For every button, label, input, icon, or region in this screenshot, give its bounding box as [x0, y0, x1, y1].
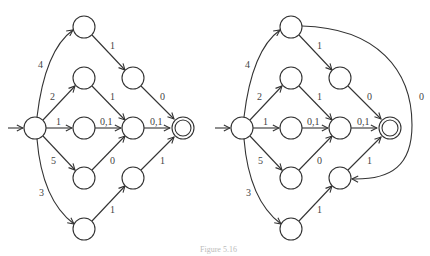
- label-S-E: 3: [246, 187, 251, 198]
- edge-S-B: [250, 86, 282, 120]
- label-C-H: 0,1: [307, 116, 320, 127]
- label-S-A: 4: [38, 59, 43, 70]
- label-C-H: 0,1: [100, 116, 113, 127]
- label-S-C: 1: [263, 116, 268, 127]
- edge-S-D: [250, 136, 282, 170]
- edge-G-F: [348, 86, 381, 119]
- state-C: [280, 117, 302, 139]
- label-S-E: 3: [39, 187, 44, 198]
- state-B: [280, 67, 302, 89]
- edge-I-F: [141, 137, 174, 170]
- state-accept-inner: [175, 120, 191, 136]
- edge-D-H: [299, 136, 332, 170]
- edge-E-I: [299, 186, 332, 221]
- label-D-H: 0: [317, 155, 322, 166]
- label-A-G: 1: [317, 40, 322, 51]
- label-G-F: 0: [160, 91, 165, 102]
- state-C: [73, 117, 95, 139]
- label-S-B: 2: [257, 91, 262, 102]
- state-H: [329, 117, 351, 139]
- state-start: [24, 117, 46, 139]
- edge-S-E: [244, 139, 281, 224]
- edge-B-H: [92, 86, 125, 120]
- state-start: [231, 117, 253, 139]
- label-S-D: 5: [51, 155, 56, 166]
- edge-B-H: [299, 86, 332, 120]
- label-A-I: 0: [419, 91, 424, 102]
- label-S-D: 5: [258, 155, 263, 166]
- label-H-F: 0,1: [357, 116, 370, 127]
- label-A-G: 1: [110, 40, 115, 51]
- edge-A-G: [92, 35, 125, 70]
- diagram-left: 4 2 1 5 3 1 1 0,1 0 1 0 0,1 1: [8, 16, 194, 240]
- automata-figure: 4 2 1 5 3 1 1 0,1 0 1 0 0,1 1: [0, 0, 430, 256]
- state-I: [329, 167, 351, 189]
- edge-D-H: [92, 136, 125, 170]
- state-G: [122, 67, 144, 89]
- label-E-I: 1: [317, 204, 322, 215]
- edge-S-E: [37, 139, 74, 224]
- edge-A-G: [299, 35, 332, 70]
- state-A: [280, 16, 302, 38]
- figure-caption: Figure 5.16: [200, 245, 237, 254]
- edge-S-B: [43, 86, 75, 120]
- diagram-right: 4 2 1 5 3 1 1 0,1 0 1 0 0,1 1 0: [215, 16, 424, 240]
- state-B: [73, 67, 95, 89]
- edge-G-F: [141, 86, 174, 119]
- label-I-F: 1: [160, 155, 165, 166]
- label-E-I: 1: [110, 204, 115, 215]
- label-G-F: 0: [367, 91, 372, 102]
- label-H-F: 0,1: [150, 116, 163, 127]
- label-D-H: 0: [110, 155, 115, 166]
- edge-S-A: [244, 30, 280, 117]
- label-S-C: 1: [56, 116, 61, 127]
- edge-S-A: [37, 30, 73, 117]
- edge-S-D: [43, 136, 75, 170]
- state-H: [122, 117, 144, 139]
- state-I: [122, 167, 144, 189]
- state-accept-inner: [382, 120, 398, 136]
- edge-E-I: [92, 186, 125, 221]
- state-D: [280, 167, 302, 189]
- label-B-H: 1: [317, 91, 322, 102]
- label-I-F: 1: [367, 155, 372, 166]
- edge-I-F: [348, 137, 381, 170]
- state-D: [73, 167, 95, 189]
- label-S-B: 2: [50, 91, 55, 102]
- state-A: [73, 16, 95, 38]
- state-E: [280, 218, 302, 240]
- label-B-H: 1: [110, 91, 115, 102]
- state-E: [73, 218, 95, 240]
- state-G: [329, 67, 351, 89]
- label-S-A: 4: [245, 59, 250, 70]
